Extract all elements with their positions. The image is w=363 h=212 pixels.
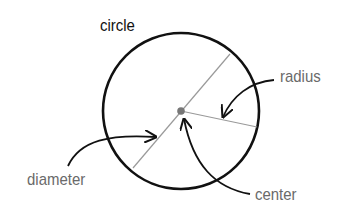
center-dot: [177, 107, 185, 115]
circle-title-label: circle: [100, 17, 135, 34]
radius-label: radius: [280, 68, 321, 85]
radius-line: [181, 111, 257, 127]
center-label: center: [255, 186, 297, 203]
diameter-label: diameter: [27, 171, 85, 188]
radius-arrow-icon: [223, 80, 274, 117]
center-arrow-icon: [184, 119, 250, 194]
diameter-arrow-icon: [68, 136, 156, 166]
